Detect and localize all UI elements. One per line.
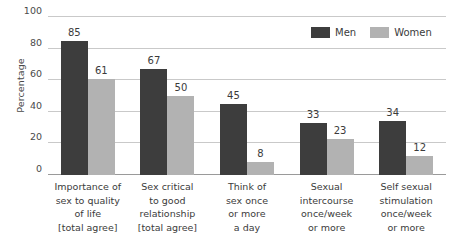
y-axis-title: Percentage [15, 31, 26, 141]
bar-value-label: 50 [161, 83, 201, 93]
category-label-line: Sex critical [128, 180, 208, 194]
legend-item-women[interactable]: Women [370, 27, 432, 38]
category-label-line: a day [207, 221, 287, 235]
bar-group: 8561 [48, 17, 128, 175]
chart-legend: MenWomen [311, 27, 432, 38]
category-labels: Importance ofsex to qualityof life[total… [48, 180, 446, 246]
bar-women [167, 96, 194, 175]
bar-women [327, 139, 354, 175]
legend-label: Men [335, 28, 356, 38]
y-tick-label-40: 40 [30, 101, 42, 111]
bar-value-label: 33 [293, 110, 333, 120]
y-tick-label-80: 80 [30, 38, 42, 48]
category-label-line: to good [128, 194, 208, 208]
category-label-line: or more [207, 207, 287, 221]
category-label-line: or more [287, 221, 367, 235]
category-label-line: sex once [207, 194, 287, 208]
category-label-line: of life [48, 207, 128, 221]
legend-label: Women [394, 28, 432, 38]
legend-swatch-men-icon [311, 27, 330, 38]
category-label-line: Self sexual [366, 180, 446, 194]
category-label-line: relationship [128, 207, 208, 221]
bar-value-label: 45 [213, 91, 253, 101]
bar-value-label: 61 [81, 66, 121, 76]
category-label: Self sexualstimulationonce/weekor more [366, 180, 446, 234]
y-tick-label-0: 0 [36, 164, 42, 174]
category-label-line: stimulation [366, 194, 446, 208]
bar-group: 458 [207, 17, 287, 175]
bar-value-label: 12 [400, 143, 440, 153]
plot-area: 020406080100 8561675045833233412 [48, 17, 446, 175]
category-label: Think ofsex onceor morea day [207, 180, 287, 234]
bar-group: 3323 [287, 17, 367, 175]
bar-men [220, 104, 247, 175]
bar-value-label: 67 [134, 56, 174, 66]
category-label: Sexualintercourseonce/weekor more [287, 180, 367, 234]
bar-women [406, 156, 433, 175]
legend-item-men[interactable]: Men [311, 27, 356, 38]
bar-men [61, 41, 88, 175]
bar-women [88, 79, 115, 175]
category-label-line: [total agree] [48, 221, 128, 235]
bar-chart: Percentage 020406080100 8561675045833233… [0, 0, 463, 250]
bar-value-label: 8 [240, 149, 280, 159]
bars-layer: 8561675045833233412 [48, 17, 446, 175]
bar-value-label: 85 [54, 28, 94, 38]
category-label: Sex criticalto goodrelationship[total ag… [128, 180, 208, 234]
y-tick-label-60: 60 [30, 69, 42, 79]
bar-women [247, 162, 274, 175]
category-label-line: Think of [207, 180, 287, 194]
legend-swatch-women-icon [370, 27, 389, 38]
y-tick-label-20: 20 [30, 132, 42, 142]
bar-group: 6750 [128, 17, 208, 175]
bar-value-label: 34 [373, 108, 413, 118]
category-label-line: once/week [287, 207, 367, 221]
category-label-line: [total agree] [128, 221, 208, 235]
category-label-line: intercourse [287, 194, 367, 208]
category-label-line: Importance of [48, 180, 128, 194]
category-label: Importance ofsex to qualityof life[total… [48, 180, 128, 234]
category-label-line: sex to quality [48, 194, 128, 208]
category-label-line: or more [366, 221, 446, 235]
bar-group: 3412 [366, 17, 446, 175]
bar-value-label: 23 [320, 126, 360, 136]
y-tick-label-100: 100 [24, 6, 42, 16]
category-label-line: once/week [366, 207, 446, 221]
category-label-line: Sexual [287, 180, 367, 194]
